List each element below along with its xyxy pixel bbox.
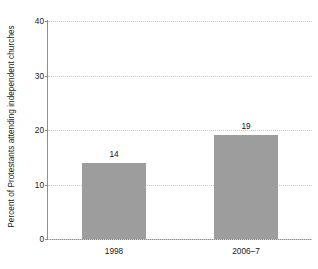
x-axis-category-label: 2006–7 xyxy=(214,246,278,256)
y-axis-tick-label: 20 xyxy=(35,125,44,135)
y-axis-title-text: Percent of Protestants attending indepen… xyxy=(7,25,16,227)
gridline xyxy=(48,76,312,77)
bar: 19 xyxy=(214,135,278,239)
bar-chart: Percent of Protestants attending indepen… xyxy=(0,0,318,269)
y-axis-tick-label: 40 xyxy=(35,16,44,26)
y-axis-tick-mark xyxy=(45,130,48,131)
y-axis-tick-mark xyxy=(45,21,48,22)
y-axis-title: Percent of Protestants attending indepen… xyxy=(0,0,22,252)
bar-value-label: 14 xyxy=(82,149,146,159)
bar: 14 xyxy=(82,163,146,239)
y-axis-tick-mark xyxy=(45,76,48,77)
plot-area: 010203040 1419 xyxy=(48,21,312,239)
x-axis-category-label: 1998 xyxy=(82,246,146,256)
gridline xyxy=(48,239,312,240)
bar-value-label: 19 xyxy=(214,121,278,131)
y-axis-tick-label: 10 xyxy=(35,180,44,190)
y-axis-tick-mark xyxy=(45,239,48,240)
gridline xyxy=(48,21,312,22)
y-axis-tick-mark xyxy=(45,185,48,186)
y-axis-tick-label: 0 xyxy=(39,234,44,244)
y-axis-tick-label: 30 xyxy=(35,71,44,81)
